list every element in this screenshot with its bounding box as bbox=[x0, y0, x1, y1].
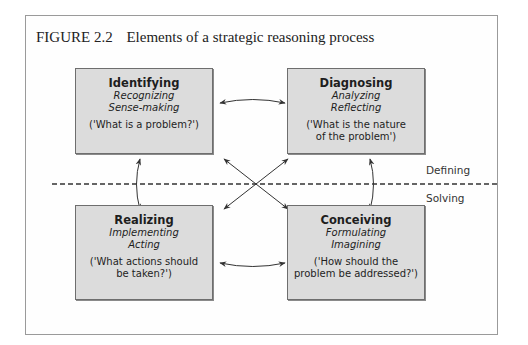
box-question: ('What is the nature of the problem') bbox=[288, 119, 424, 143]
box-heading: Conceiving bbox=[288, 214, 424, 227]
box-question-line: of the problem') bbox=[288, 131, 424, 143]
box-subtitle: Implementing bbox=[76, 227, 212, 239]
box-subtitle: Sense-making bbox=[76, 102, 212, 114]
box-question: ('What is a problem?') bbox=[76, 119, 212, 131]
box-heading: Identifying bbox=[76, 77, 212, 90]
box-identifying: Identifying Recognizing Sense-making ('W… bbox=[75, 68, 213, 154]
box-question: ('How should the problem be addressed?') bbox=[288, 256, 424, 280]
box-subtitle: Acting bbox=[76, 239, 212, 251]
box-heading: Realizing bbox=[76, 214, 212, 227]
zone-label-defining: Defining bbox=[426, 164, 470, 176]
box-subtitle: Recognizing bbox=[76, 90, 212, 102]
box-question-line: problem be addressed?') bbox=[288, 268, 424, 280]
box-heading: Diagnosing bbox=[288, 77, 424, 90]
box-question-line: ('How should the bbox=[288, 256, 424, 268]
box-subtitle: Formulating bbox=[288, 227, 424, 239]
box-subtitle: Imagining bbox=[288, 239, 424, 251]
box-conceiving: Conceiving Formulating Imagining ('How s… bbox=[287, 205, 425, 300]
box-realizing: Realizing Implementing Acting ('What act… bbox=[75, 205, 213, 300]
arrow-realizing-conceiving bbox=[220, 263, 285, 267]
arrow-identifying-diagnosing bbox=[220, 100, 285, 104]
box-subtitle: Analyzing bbox=[288, 90, 424, 102]
arrow-identifying-realizing bbox=[137, 159, 141, 210]
box-subtitle: Reflecting bbox=[288, 102, 424, 114]
box-question: ('What actions should be taken?') bbox=[76, 256, 212, 280]
box-question-line: ('What actions should bbox=[76, 256, 212, 268]
zone-label-solving: Solving bbox=[426, 192, 464, 204]
box-diagnosing: Diagnosing Analyzing Reflecting ('What i… bbox=[287, 68, 425, 154]
box-question-line: be taken?') bbox=[76, 268, 212, 280]
box-question-line: ('What is the nature bbox=[288, 119, 424, 131]
